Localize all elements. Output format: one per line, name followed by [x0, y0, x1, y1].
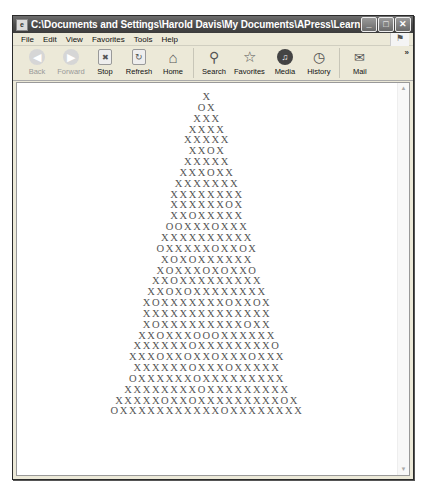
mail-button[interactable]: ✉ Mail — [346, 46, 374, 76]
search-icon: ⚲ — [206, 49, 222, 65]
mail-label: Mail — [353, 67, 367, 76]
refresh-icon: ↻ — [132, 49, 146, 65]
menu-help[interactable]: Help — [161, 35, 177, 44]
window-controls: _ □ ✕ — [361, 17, 413, 32]
home-icon: ⌂ — [165, 49, 181, 65]
xo-tree: XOXXXXXXXXXXXXXXXOXXXXXXXXXOXXXXXXXXXXXX… — [17, 92, 397, 417]
tree-row: XXXXXXXXOXXXXXXXXX — [17, 385, 397, 396]
home-button[interactable]: ⌂ Home — [159, 46, 187, 76]
favorites-label: Favorites — [234, 67, 265, 76]
menu-favorites[interactable]: Favorites — [92, 35, 125, 44]
tree-row: XOXXXXXXXXXOXX — [17, 320, 397, 331]
home-label: Home — [163, 67, 183, 76]
history-icon: ◷ — [311, 49, 327, 65]
mail-icon: ✉ — [352, 49, 368, 65]
search-label: Search — [202, 67, 226, 76]
media-button[interactable]: ♫ Media — [271, 46, 299, 76]
history-button[interactable]: ◷ History — [305, 46, 333, 76]
toolbar-overflow-chevron-icon[interactable]: » — [405, 48, 409, 57]
maximize-button[interactable]: □ — [378, 17, 394, 32]
browser-window: e C:\Documents and Settings\Harold Davis… — [12, 15, 414, 480]
favorites-button[interactable]: ☆ Favorites — [234, 46, 265, 76]
stop-button[interactable]: ✖ Stop — [91, 46, 119, 76]
title-bar[interactable]: e C:\Documents and Settings\Harold Davis… — [13, 16, 413, 33]
star-icon: ☆ — [241, 49, 257, 65]
refresh-label: Refresh — [126, 67, 152, 76]
forward-label: Forward — [57, 67, 85, 76]
vertical-scrollbar[interactable]: ▲ ▼ — [397, 83, 409, 475]
window-title: C:\Documents and Settings\Harold Davis\M… — [31, 19, 361, 30]
page-content: XOXXXXXXXXXXXXXXXOXXXXXXXXXOXXXXXXXXXXXX… — [16, 82, 410, 476]
ie-page-icon: e — [16, 19, 28, 31]
tree-row: XXXXXXX — [17, 179, 397, 190]
tree-row: OXXXXXXXXXXXOXXXXXXXX — [17, 406, 397, 417]
menu-tools[interactable]: Tools — [134, 35, 153, 44]
media-icon: ♫ — [277, 49, 293, 65]
menu-bar: File Edit View Favorites Tools Help ⚑ — [13, 33, 413, 46]
stop-icon: ✖ — [98, 49, 112, 65]
back-label: Back — [29, 67, 46, 76]
tree-row: XXX — [17, 114, 397, 125]
windows-logo-icon: ⚑ — [390, 33, 409, 46]
scroll-down-icon[interactable]: ▼ — [398, 464, 409, 475]
forward-arrow-icon: ▶ — [63, 49, 79, 65]
standard-toolbar: ◀ Back ▶ Forward ✖ Stop ↻ Refresh ⌂ Home… — [13, 46, 413, 81]
refresh-button[interactable]: ↻ Refresh — [125, 46, 153, 76]
menu-file[interactable]: File — [21, 35, 34, 44]
tree-row: XOXOXXXXXX — [17, 255, 397, 266]
toolbar-separator — [339, 48, 340, 78]
back-button[interactable]: ◀ Back — [23, 46, 51, 76]
back-arrow-icon: ◀ — [29, 49, 45, 65]
media-label: Media — [275, 67, 295, 76]
stop-label: Stop — [97, 67, 112, 76]
menu-edit[interactable]: Edit — [43, 35, 57, 44]
scroll-up-icon[interactable]: ▲ — [398, 83, 409, 94]
minimize-button[interactable]: _ — [361, 17, 377, 32]
close-button[interactable]: ✕ — [395, 17, 411, 32]
menu-view[interactable]: View — [66, 35, 83, 44]
search-button[interactable]: ⚲ Search — [200, 46, 228, 76]
forward-button[interactable]: ▶ Forward — [57, 46, 85, 76]
history-label: History — [307, 67, 330, 76]
toolbar-separator — [193, 48, 194, 78]
